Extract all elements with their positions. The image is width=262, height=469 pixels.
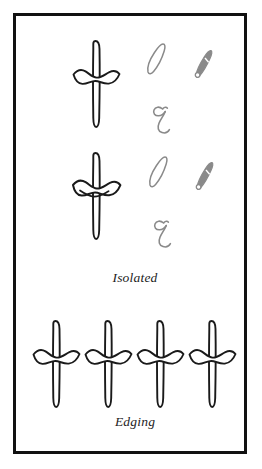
section-edging (16, 300, 244, 412)
caption-edging: Edging (4, 414, 262, 430)
caption-isolated: Isolated (4, 270, 262, 286)
calligraphy-plate: Isolated Edging (0, 0, 262, 469)
section-isolated (16, 18, 244, 266)
